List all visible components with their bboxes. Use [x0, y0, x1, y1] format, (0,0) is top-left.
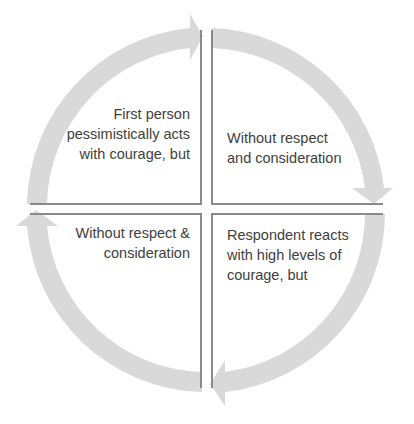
text-line: with high levels of: [227, 245, 349, 265]
text-line: Respondent reacts: [227, 225, 349, 245]
quadrant-bottom-right: Respondent reacts with high levels of co…: [211, 213, 383, 388]
text-line: First person: [67, 104, 190, 124]
text-line: Without respect: [227, 128, 341, 148]
quadrant-top-left-text: First person pessimistically acts with c…: [67, 104, 190, 164]
quadrant-top-left: First person pessimistically acts with c…: [30, 30, 202, 205]
text-line: and consideration: [227, 148, 341, 168]
text-line: Without respect &: [76, 223, 190, 243]
quadrant-top-right-text: Without respect and consideration: [227, 128, 341, 168]
quadrant-bottom-right-text: Respondent reacts with high levels of co…: [227, 225, 349, 285]
quadrant-top-right: Without respect and consideration: [211, 30, 383, 205]
quadrant-bottom-left: Without respect & consideration: [30, 213, 202, 388]
text-line: with courage, but: [67, 144, 190, 164]
text-line: courage, but: [227, 265, 349, 285]
quadrant-bottom-left-text: Without respect & consideration: [76, 223, 190, 263]
text-line: pessimistically acts: [67, 124, 190, 144]
text-line: consideration: [76, 243, 190, 263]
